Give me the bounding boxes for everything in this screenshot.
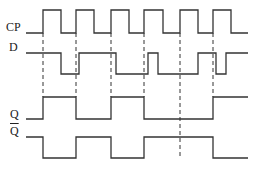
waveform-cp (26, 10, 248, 33)
signal-label-q: Q (10, 108, 19, 120)
waveform-q (26, 97, 248, 119)
signal-label-d: D (9, 41, 18, 53)
timing-diagram: CP D Q Q (0, 0, 258, 173)
signal-label-q-bar: Q (10, 125, 19, 137)
waveform-q-bar (26, 137, 248, 158)
signal-label-cp: CP (6, 21, 21, 33)
waveform-canvas (0, 0, 258, 173)
waveform-d (26, 53, 248, 74)
